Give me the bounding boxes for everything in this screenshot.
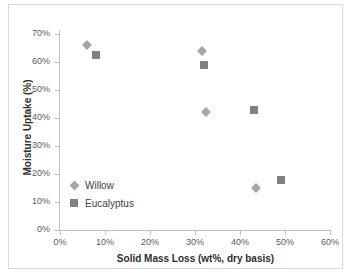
diamond-marker-icon [68, 182, 80, 189]
square-marker-icon [92, 51, 100, 59]
square-marker-icon [277, 176, 285, 184]
square-marker-icon [200, 61, 208, 69]
data-point-eucalyptus [277, 176, 285, 184]
data-point-willow [252, 185, 259, 192]
y-tick-mark [55, 118, 59, 119]
x-tick-mark [105, 231, 106, 235]
x-tick-mark [150, 231, 151, 235]
data-point-willow [203, 109, 210, 116]
x-tick-label: 20% [130, 238, 170, 247]
x-tick-label: 0% [40, 238, 80, 247]
legend-item-label: Willow [85, 180, 114, 191]
x-tick-mark [60, 231, 61, 235]
x-tick-label: 50% [265, 238, 305, 247]
x-tick-label: 40% [220, 238, 260, 247]
x-tick-mark [195, 231, 196, 235]
y-tick-label: 0% [10, 225, 50, 234]
y-tick-label: 70% [10, 29, 50, 38]
diamond-marker-icon [82, 40, 92, 50]
y-axis-title: Moisture Uptake (%) [22, 48, 33, 208]
y-tick-mark [55, 202, 59, 203]
data-point-willow [84, 42, 91, 49]
x-tick-label: 30% [175, 238, 215, 247]
legend-item-label: Eucalyptus [85, 198, 134, 209]
legend-item-eucalyptus[interactable]: Eucalyptus [68, 194, 134, 212]
x-tick-mark [285, 231, 286, 235]
x-tick-label: 60% [310, 238, 349, 247]
square-marker-icon [250, 106, 258, 114]
data-point-eucalyptus [92, 51, 100, 59]
diamond-marker-icon [251, 183, 261, 193]
chart-figure: 0%10%20%30%40%50%60%70% 0%10%20%30%40%50… [0, 0, 349, 274]
diamond-marker-icon [197, 46, 207, 56]
y-tick-mark [55, 230, 59, 231]
y-tick-mark [55, 146, 59, 147]
x-tick-mark [240, 231, 241, 235]
data-point-eucalyptus [250, 106, 258, 114]
x-tick-label: 10% [85, 238, 125, 247]
chart-legend: WillowEucalyptus [68, 176, 134, 212]
data-point-willow [198, 47, 205, 54]
y-tick-mark [55, 34, 59, 35]
diamond-marker-icon [201, 107, 211, 117]
x-tick-mark [330, 231, 331, 235]
legend-item-willow[interactable]: Willow [68, 176, 134, 194]
square-marker-icon [68, 199, 80, 207]
y-tick-mark [55, 62, 59, 63]
y-tick-mark [55, 174, 59, 175]
x-axis-title: Solid Mass Loss (wt%, dry basis) [60, 253, 331, 264]
data-point-eucalyptus [200, 61, 208, 69]
y-tick-mark [55, 90, 59, 91]
